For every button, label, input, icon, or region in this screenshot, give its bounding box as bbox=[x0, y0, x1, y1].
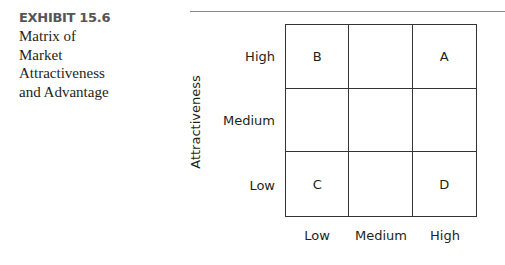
col-label-medium: Medium bbox=[349, 228, 413, 243]
matrix-cell bbox=[349, 25, 412, 89]
matrix-cell: A bbox=[413, 25, 476, 89]
matrix-grid: B A C D bbox=[285, 24, 477, 217]
exhibit-caption: EXHIBIT 15.6 Matrix of Market Attractive… bbox=[19, 9, 169, 101]
exhibit-title-line: Matrix of bbox=[19, 27, 169, 46]
row-label-medium: Medium bbox=[195, 113, 275, 128]
matrix-cell: C bbox=[286, 152, 349, 216]
matrix-cell: B bbox=[286, 25, 349, 89]
matrix-cell bbox=[413, 89, 476, 153]
exhibit-title-line: and Advantage bbox=[19, 83, 169, 102]
header-rule bbox=[190, 11, 505, 12]
col-label-high: High bbox=[413, 228, 477, 243]
exhibit-number: EXHIBIT 15.6 bbox=[19, 9, 169, 27]
matrix-cell bbox=[349, 152, 412, 216]
exhibit-title-line: Market bbox=[19, 46, 169, 65]
exhibit-title-line: Attractiveness bbox=[19, 64, 169, 83]
col-label-low: Low bbox=[285, 228, 349, 243]
row-label-high: High bbox=[195, 49, 275, 64]
matrix-cell bbox=[286, 89, 349, 153]
row-label-low: Low bbox=[195, 178, 275, 193]
matrix-cell bbox=[349, 89, 412, 153]
matrix-cell: D bbox=[413, 152, 476, 216]
